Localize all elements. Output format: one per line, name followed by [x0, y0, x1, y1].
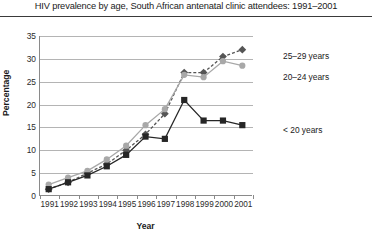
x-axis-tick-label: 1996: [137, 200, 155, 209]
x-axis-tick-label: 1999: [195, 200, 213, 209]
x-axis-tick-label: 1992: [60, 200, 78, 209]
data-point-marker: [200, 117, 206, 123]
data-point-marker: [220, 117, 226, 123]
data-point-marker: [220, 58, 226, 64]
y-axis-tick-label: 35: [27, 31, 36, 41]
y-axis-tick-label: 25: [27, 77, 36, 87]
series-25-29-years: [45, 46, 246, 193]
data-point-marker: [142, 133, 148, 139]
x-axis-tick-label: 1991: [41, 200, 59, 209]
x-axis-tick-label: 2001: [234, 200, 252, 209]
y-axis-tick-label: 20: [27, 100, 36, 110]
y-axis-tick-label: 10: [27, 145, 36, 155]
y-axis-tick-label: 0: [31, 191, 36, 201]
x-axis-tick-label: 1997: [157, 200, 175, 209]
x-axis-tick-label: 1993: [79, 200, 97, 209]
data-point-marker: [239, 63, 245, 69]
chart-title: HIV prevalence by age, South African ant…: [0, 0, 372, 13]
data-point-marker: [239, 122, 245, 128]
data-point-marker: [142, 122, 148, 128]
data-point-marker: [104, 163, 110, 169]
data-point-marker: [65, 179, 71, 185]
data-point-marker: [181, 72, 187, 78]
data-point-marker: [200, 74, 206, 80]
data-point-marker: [162, 106, 168, 112]
series-20-24-years: [46, 58, 246, 188]
y-axis-tick-label: 5: [31, 168, 36, 178]
legend-item-under-20-years: < 20 years: [283, 125, 322, 135]
data-point-marker: [46, 186, 52, 192]
data-point-marker: [162, 136, 168, 142]
y-axis-tick-label: 30: [27, 54, 36, 64]
chart-figure: HIV prevalence by age, South African ant…: [0, 0, 372, 239]
x-axis-label: Year: [39, 221, 252, 231]
data-point-marker: [123, 152, 129, 158]
data-point-marker: [123, 143, 129, 149]
y-axis-label: Percentage: [1, 70, 11, 116]
x-axis-tick-label: 1995: [118, 200, 136, 209]
x-axis-tick: [253, 195, 254, 199]
x-axis-tick-label: 2000: [215, 200, 233, 209]
data-point-marker: [181, 97, 187, 103]
series-line: [49, 50, 243, 189]
legend-item-20-24-years: 20–24 years: [283, 72, 329, 82]
data-point-marker: [104, 156, 110, 162]
y-axis-tick-label: 15: [27, 122, 36, 132]
title-divider: [0, 16, 372, 17]
legend-item-25-29-years: 25–29 years: [283, 51, 329, 61]
series-line: [49, 100, 243, 189]
data-point-marker: [238, 46, 246, 54]
x-axis-tick-label: 1994: [99, 200, 117, 209]
series--20-years: [46, 97, 246, 192]
data-point-marker: [84, 172, 90, 178]
data-series-layer: [39, 36, 252, 196]
x-axis-tick-label: 1998: [176, 200, 194, 209]
